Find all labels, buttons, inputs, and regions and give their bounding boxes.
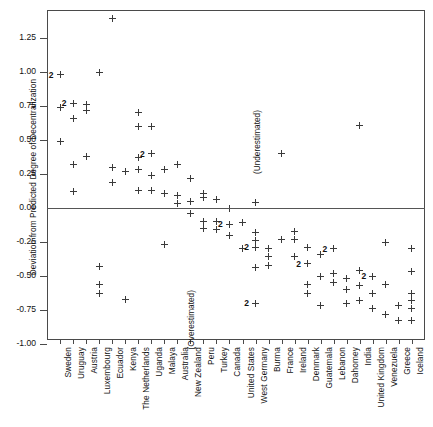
x-tick-label: India: [363, 347, 373, 366]
x-tick-label: Peru: [206, 347, 216, 365]
x-tick-mark: [399, 340, 400, 344]
x-tick-mark: [164, 340, 165, 344]
y-tick-label: 0.75: [2, 100, 36, 110]
x-tick-label: Luxembourg: [102, 347, 112, 394]
overlap-count-label: 2: [140, 149, 145, 159]
y-tick-mark: [40, 276, 47, 277]
x-tick-mark: [360, 340, 361, 344]
x-tick-mark: [256, 340, 257, 344]
y-tick-label: -0.25: [2, 236, 36, 246]
x-tick-label: Uganda: [154, 347, 164, 377]
x-tick-mark: [295, 340, 296, 344]
y-tick-mark: [40, 140, 47, 141]
x-tick-mark: [386, 340, 387, 344]
plot-annotation: (Overestimated): [186, 290, 196, 349]
x-tick-mark: [60, 340, 61, 344]
x-tick-label: Burma: [272, 347, 282, 372]
x-tick-mark: [177, 340, 178, 344]
overlap-count-label: 2: [62, 98, 67, 108]
overlap-count-label: 2: [218, 219, 223, 229]
y-tick-label: -0.50: [2, 270, 36, 280]
x-tick-label: Kenya: [128, 347, 138, 371]
x-tick-label: Guatemala: [324, 347, 334, 389]
y-tick-label: 1.00: [2, 66, 36, 76]
x-tick-label: France: [285, 347, 295, 373]
x-tick-mark: [138, 340, 139, 344]
plot-area: [47, 10, 425, 340]
x-tick-mark: [151, 340, 152, 344]
x-tick-label: The Netherlands: [141, 347, 151, 410]
x-tick-mark: [99, 340, 100, 344]
y-tick-label: 0.00: [2, 202, 36, 212]
y-tick-mark: [40, 106, 47, 107]
x-tick-mark: [412, 340, 413, 344]
y-tick-mark: [40, 310, 47, 311]
overlap-count-label: 2: [296, 259, 301, 269]
x-tick-label: Austria: [89, 347, 99, 374]
x-tick-label: Malaya: [167, 347, 177, 374]
y-tick-label: 0.25: [2, 168, 36, 178]
x-tick-mark: [73, 340, 74, 344]
y-tick-mark: [40, 38, 47, 39]
x-tick-label: United States: [246, 347, 256, 398]
x-tick-mark: [125, 340, 126, 344]
y-tick-mark: [40, 72, 47, 73]
x-tick-mark: [112, 340, 113, 344]
x-tick-label: Dahomey: [350, 347, 360, 383]
x-tick-mark: [282, 340, 283, 344]
x-tick-mark: [203, 340, 204, 344]
x-tick-mark: [308, 340, 309, 344]
overlap-count-label: 2: [361, 271, 366, 281]
y-tick-label: -1.00: [2, 338, 36, 348]
y-tick-label: 0.50: [2, 134, 36, 144]
x-tick-label: Canada: [232, 347, 242, 377]
x-tick-mark: [269, 340, 270, 344]
x-tick-mark: [347, 340, 348, 344]
scatter-plot-figure: Deviation from Predicted Degree of Decen…: [0, 0, 433, 427]
zero-reference-line: [47, 208, 425, 209]
x-tick-label: Sweden: [63, 347, 73, 378]
y-tick-label: 1.25: [2, 32, 36, 42]
x-tick-mark: [373, 340, 374, 344]
x-tick-mark: [321, 340, 322, 344]
overlap-count-label: 2: [244, 242, 249, 252]
x-tick-label: United Kingdom: [376, 347, 386, 407]
x-tick-label: Ireland: [298, 347, 308, 373]
y-tick-mark: [40, 242, 47, 243]
y-tick-mark: [40, 174, 47, 175]
x-tick-label: Turkey: [219, 347, 229, 373]
x-tick-label: Uruguay: [76, 347, 86, 379]
plot-annotation: (Underestimated): [252, 110, 262, 174]
overlap-count-label: 2: [49, 70, 54, 80]
x-tick-label: Greece: [402, 347, 412, 375]
overlap-count-label: 2: [244, 298, 249, 308]
x-tick-mark: [243, 340, 244, 344]
x-tick-mark: [86, 340, 87, 344]
x-tick-label: New Zealand: [193, 347, 203, 397]
x-tick-mark: [334, 340, 335, 344]
x-tick-label: West Germany: [259, 347, 269, 403]
overlap-count-label: 2: [322, 244, 327, 254]
x-tick-label: Australia: [180, 347, 190, 380]
y-tick-mark: [40, 344, 47, 345]
y-tick-label: -0.75: [2, 304, 36, 314]
x-tick-mark: [216, 340, 217, 344]
x-tick-label: Denmark: [311, 347, 321, 381]
x-tick-label: Iceland: [415, 347, 425, 374]
x-tick-label: Ecuador: [115, 347, 125, 379]
x-tick-label: Venezuela: [389, 347, 399, 387]
x-tick-mark: [229, 340, 230, 344]
x-tick-label: Lebanon: [337, 347, 347, 380]
